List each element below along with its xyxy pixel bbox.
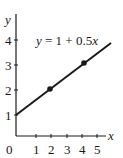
x-tick-label: 5: [94, 142, 101, 157]
series-line: [16, 43, 111, 115]
data-point: [81, 60, 87, 66]
equation-annotation: y = 1 + 0.5x: [34, 33, 98, 48]
y-tick-label: 3: [5, 58, 12, 73]
y-tick-label: 4: [5, 33, 12, 48]
chart-canvas: y x 0 4 3 2 1 1 2 3 4 5 y = 1 + 0.5x: [0, 0, 123, 158]
y-tick-label: 1: [5, 108, 12, 123]
y-axis-label: y: [3, 12, 11, 27]
x-tick-label: 1: [33, 142, 40, 157]
x-axis-label: x: [107, 128, 114, 143]
data-point: [47, 86, 53, 92]
origin-label: 0: [6, 142, 13, 157]
y-tick-label: 2: [5, 83, 12, 98]
x-tick-label: 2: [48, 142, 55, 157]
x-tick-label: 3: [64, 142, 71, 157]
x-tick-label: 4: [79, 142, 86, 157]
